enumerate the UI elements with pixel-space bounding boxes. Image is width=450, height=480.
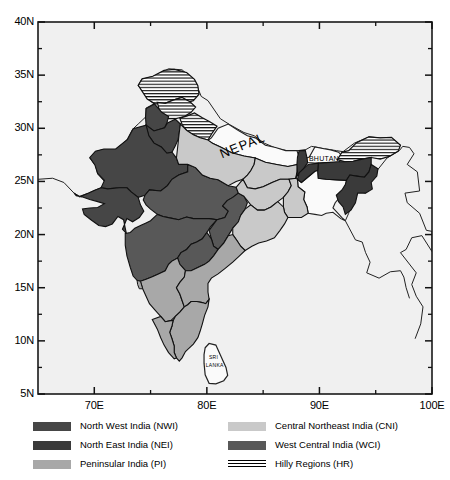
legend-item-cni: Central Northeast India (CNI) — [228, 418, 398, 434]
legend-label-hr: Hilly Regions (HR) — [275, 459, 353, 469]
legend-label-pi: Peninsular India (PI) — [80, 459, 166, 469]
y-tick-label-25N: 25N — [0, 174, 34, 186]
y-tick-label-40N: 40N — [0, 15, 34, 27]
y-tick-label-35N: 35N — [0, 68, 34, 80]
y-tick-label-15N: 15N — [0, 281, 34, 293]
svg-text:SRI: SRI — [209, 354, 218, 360]
y-tick-label-20N: 20N — [0, 228, 34, 240]
legend-label-cni: Central Northeast India (CNI) — [275, 421, 398, 431]
legend-swatch-nwi — [33, 422, 71, 431]
legend-label-wci: West Central India (WCI) — [275, 440, 380, 450]
legend-swatch-hr — [228, 460, 266, 469]
legend-swatch-wci — [228, 441, 266, 450]
y-tick-label-30N: 30N — [0, 121, 34, 133]
svg-text:LANKA: LANKA — [206, 362, 224, 368]
map-label-srilanka2: LANKA — [206, 362, 224, 368]
legend: North West India (NWI)North East India (… — [0, 412, 450, 480]
legend-swatch-pi — [33, 460, 71, 469]
y-tick-label-10N: 10N — [0, 334, 34, 346]
legend-item-nwi: North West India (NWI) — [33, 418, 178, 434]
x-tick-label-100E: 100E — [412, 399, 450, 411]
x-tick-label-80E: 80E — [187, 399, 227, 411]
legend-swatch-cni — [228, 422, 266, 431]
map-label-bhutan: BHUTAN — [309, 155, 339, 162]
legend-label-nei: North East India (NEI) — [80, 440, 173, 450]
legend-item-wci: West Central India (WCI) — [228, 437, 380, 453]
legend-item-nei: North East India (NEI) — [33, 437, 173, 453]
legend-label-nwi: North West India (NWI) — [80, 421, 178, 431]
x-tick-label-70E: 70E — [74, 399, 114, 411]
map-label-srilanka: SRI — [209, 354, 218, 360]
figure-root: NEPALBHUTANSRILANKA 70E80E90E100E 5N10N1… — [0, 0, 450, 480]
x-tick-label-90E: 90E — [299, 399, 339, 411]
y-tick-label-5N: 5N — [0, 387, 34, 399]
svg-text:BHUTAN: BHUTAN — [309, 155, 339, 162]
legend-swatch-nei — [33, 441, 71, 450]
legend-item-hr: Hilly Regions (HR) — [228, 456, 353, 472]
legend-item-pi: Peninsular India (PI) — [33, 456, 166, 472]
